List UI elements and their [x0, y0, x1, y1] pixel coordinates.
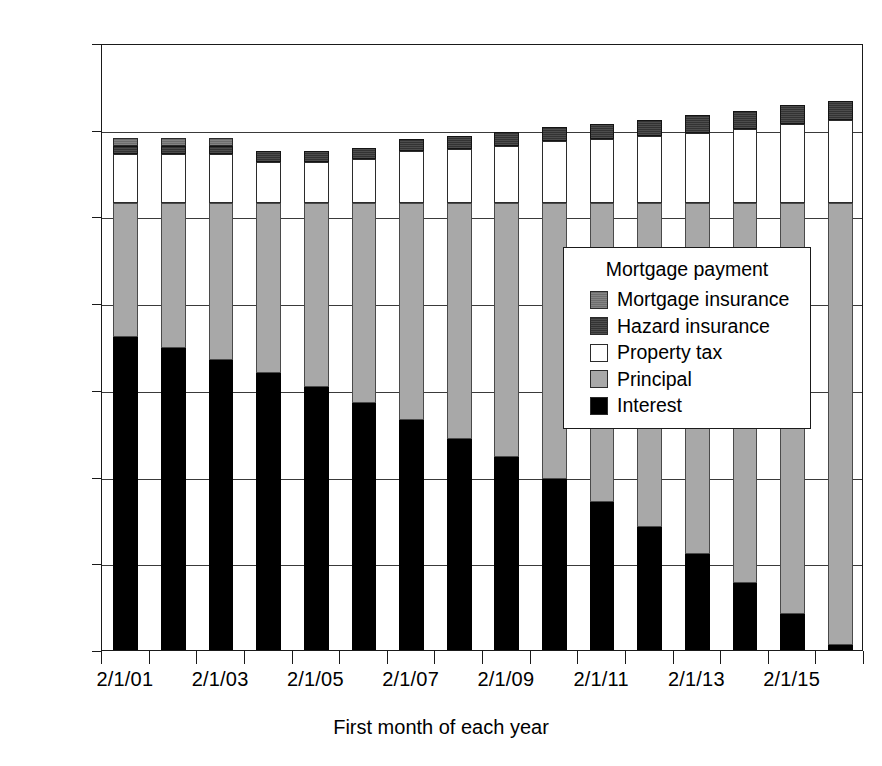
bar-segment-hazard-insurance [733, 111, 758, 129]
bar-segment-hazard-insurance [113, 146, 138, 155]
x-axis-tick-mark [434, 651, 435, 664]
x-axis-tick-marks [101, 651, 863, 665]
y-axis-tick-mark [92, 564, 101, 565]
bar-segment-property-tax [494, 146, 519, 204]
x-axis-tick-mark [863, 651, 864, 664]
bar [209, 138, 234, 650]
y-axis-tick-mark [92, 44, 101, 45]
bar [161, 138, 186, 650]
x-axis-tick-mark [482, 651, 483, 664]
bar-segment-hazard-insurance [780, 105, 805, 125]
legend-items: Mortgage insuranceHazard insuranceProper… [576, 290, 798, 416]
legend-swatch-icon [590, 291, 608, 309]
x-axis-tick-label: 2/1/03 [192, 668, 249, 691]
x-axis-tick-mark [101, 651, 102, 664]
x-axis-tick-mark [339, 651, 340, 664]
bar-segment-property-tax [399, 151, 424, 203]
legend-item[interactable]: Principal [590, 370, 798, 390]
x-axis-tick-mark [292, 651, 293, 664]
bar-segment-hazard-insurance [304, 151, 329, 162]
bar-segment-hazard-insurance [161, 146, 186, 155]
x-axis-tick-mark [720, 651, 721, 664]
legend-item-label: Principal [617, 370, 692, 390]
bar-segment-property-tax [447, 149, 472, 203]
legend-item[interactable]: Interest [590, 396, 798, 416]
bar-segment-mortgage-insurance [161, 138, 186, 146]
bar-segment-interest [399, 420, 424, 650]
legend-item[interactable]: Property tax [590, 343, 798, 363]
x-axis-tick-mark [673, 651, 674, 664]
x-axis-tick-mark [625, 651, 626, 664]
x-axis-title: First month of each year [0, 716, 882, 739]
bar-segment-interest [256, 373, 281, 650]
bar-segment-principal [113, 203, 138, 337]
x-axis-tick-mark [196, 651, 197, 664]
y-axis-tick-mark [92, 217, 101, 218]
bar-segment-hazard-insurance [494, 132, 519, 146]
bar-segment-property-tax [590, 139, 615, 203]
legend-item-label: Interest [617, 396, 682, 416]
x-axis-tick-label: 2/1/01 [96, 668, 153, 691]
bar [447, 136, 472, 650]
bar-segment-property-tax [828, 120, 853, 203]
x-axis-tick-mark [149, 651, 150, 664]
bar-segment-principal [161, 203, 186, 347]
bar-segment-hazard-insurance [256, 151, 281, 162]
bar-segment-property-tax [113, 154, 138, 203]
legend-item[interactable]: Hazard insurance [590, 317, 798, 337]
bar [399, 139, 424, 650]
bar-segment-principal [304, 203, 329, 386]
bar-segment-interest [590, 502, 615, 650]
bar-segment-mortgage-insurance [209, 138, 234, 146]
bar-segment-principal [494, 203, 519, 456]
bar-segment-interest [113, 337, 138, 650]
bar [113, 138, 138, 650]
bar-segment-property-tax [304, 162, 329, 203]
legend-item[interactable]: Mortgage insurance [590, 290, 798, 310]
bar [494, 132, 519, 650]
mortgage-payment-stacked-bar-chart: $0$200$400$600$800$1,000$1,200$1,400 Fir… [0, 0, 882, 766]
bar-segment-principal [828, 203, 853, 644]
y-axis-tick-mark [92, 304, 101, 305]
bar-segment-hazard-insurance [399, 139, 424, 151]
x-axis-tick-mark [244, 651, 245, 664]
bar-segment-mortgage-insurance [113, 138, 138, 146]
x-axis-tick-mark [387, 651, 388, 664]
bar-segment-interest [209, 360, 234, 650]
bar-segment-interest [352, 403, 377, 650]
legend-item-label: Property tax [617, 343, 722, 363]
legend-item-label: Hazard insurance [617, 317, 770, 337]
x-axis-tick-label: 2/1/13 [668, 668, 725, 691]
bar-segment-principal [399, 203, 424, 420]
bar-segment-principal [352, 203, 377, 402]
legend-swatch-icon [590, 317, 608, 335]
bar-segment-interest [685, 554, 710, 650]
bar-segment-hazard-insurance [590, 124, 615, 139]
bar [828, 101, 853, 650]
bar-segment-interest [542, 479, 567, 650]
bar-segment-interest [304, 387, 329, 650]
x-axis-tick-mark [768, 651, 769, 664]
bar-segment-property-tax [685, 133, 710, 204]
y-axis-tick-mark [92, 131, 101, 132]
x-axis-tick-mark [815, 651, 816, 664]
legend-swatch-icon [590, 370, 608, 388]
legend-item-label: Mortgage insurance [617, 290, 789, 310]
bar-segment-hazard-insurance [828, 101, 853, 121]
legend-title: Mortgage payment [576, 258, 798, 281]
bar-segment-property-tax [209, 154, 234, 203]
bar [304, 151, 329, 650]
bar-segment-property-tax [637, 136, 662, 203]
bar-segment-property-tax [780, 124, 805, 203]
bar-segment-hazard-insurance [209, 146, 234, 155]
bar-segment-hazard-insurance [542, 127, 567, 141]
bar [256, 151, 281, 650]
bar-segment-principal [447, 203, 472, 439]
bar-segment-hazard-insurance [685, 115, 710, 132]
x-axis-tick-label: 2/1/15 [763, 668, 820, 691]
bar-segment-property-tax [256, 162, 281, 203]
legend: Mortgage payment Mortgage insuranceHazar… [563, 247, 811, 429]
bar-segment-interest [447, 439, 472, 650]
x-axis-tick-label: 2/1/07 [382, 668, 439, 691]
legend-swatch-icon [590, 397, 608, 415]
